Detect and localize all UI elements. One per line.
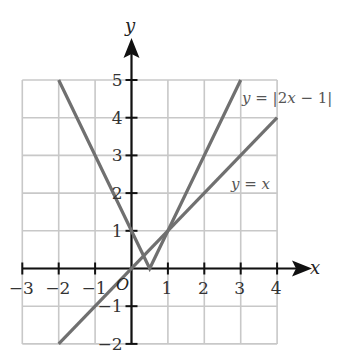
x-tick-label: −1 [82, 278, 107, 298]
grid [22, 80, 277, 344]
y-tick-label: −2 [97, 334, 122, 354]
origin-label: O [116, 275, 129, 294]
identity-label-eq: = [239, 175, 261, 193]
y-tick-label: 2 [112, 183, 123, 203]
x-tick-label: 2 [198, 278, 209, 298]
graph-canvas: −3−2−11234−2−112345 x y O y = |2x − 1| y… [0, 0, 352, 357]
x-tick-label: 4 [271, 278, 282, 298]
y-tick-label: 1 [112, 221, 123, 241]
x-tick-label: −2 [45, 278, 70, 298]
abs-line-label: y = |2x − 1| [241, 89, 332, 107]
y-tick-label: 5 [112, 70, 123, 90]
abs-label-rest: − 1| [296, 89, 333, 107]
y-tick-label: −1 [97, 296, 122, 316]
y-axis-label: y [124, 15, 136, 36]
x-tick-label: 1 [161, 278, 172, 298]
identity-line-label: y = x [230, 175, 271, 193]
x-tick-label: −3 [9, 278, 34, 298]
x-tick-label: 3 [234, 278, 245, 298]
y-tick-label: 3 [112, 145, 123, 165]
y-tick-label: 4 [112, 108, 123, 128]
identity-label-x: x [262, 175, 271, 193]
abs-value-line [59, 80, 241, 269]
x-axis-label: x [310, 257, 320, 278]
abs-label-eq: = |2 [250, 89, 287, 107]
